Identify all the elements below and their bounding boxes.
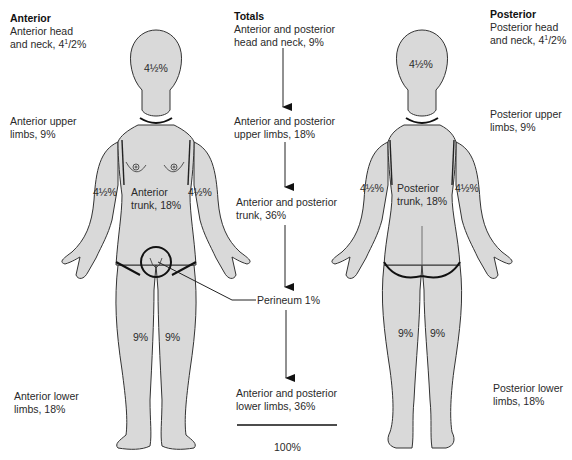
posterior-head-neck-label-line2: and neck, 41/2% bbox=[490, 34, 566, 47]
anterior-left-arm-pct: 4½% bbox=[93, 186, 117, 199]
posterior-lower-limbs-label: Posterior lower limbs, 18% bbox=[493, 382, 563, 408]
posterior-upper-limbs-label: Posterior upper limbs, 9% bbox=[490, 108, 562, 134]
posterior-trunk-pct: Posterior trunk, 18% bbox=[397, 182, 447, 208]
anterior-left-leg-pct: 9% bbox=[133, 331, 148, 344]
totals-sum: 100% bbox=[274, 441, 301, 454]
anterior-body-figure bbox=[62, 30, 250, 449]
anterior-right-leg bbox=[156, 265, 196, 449]
posterior-heading: Posterior bbox=[490, 8, 566, 21]
totals-head-neck-label: Totals Anterior and posterior head and n… bbox=[234, 10, 335, 49]
posterior-left-arm-pct: 4½% bbox=[360, 182, 384, 195]
anterior-head-pct: 4½% bbox=[144, 62, 168, 75]
totals-upper-limbs-label: Anterior and posterior upper limbs, 18% bbox=[234, 115, 335, 141]
totals-trunk-label: Anterior and posterior trunk, 36% bbox=[236, 196, 337, 222]
posterior-column: Posterior Posterior head and neck, 41/2% bbox=[490, 8, 566, 47]
anterior-left-leg bbox=[116, 265, 156, 449]
posterior-right-arm bbox=[456, 142, 512, 278]
posterior-right-leg bbox=[422, 265, 462, 448]
anterior-upper-limbs-label: Anterior upper limbs, 9% bbox=[10, 115, 77, 141]
anterior-right-arm-pct: 4½% bbox=[188, 186, 212, 199]
totals-perineum-label: Perineum 1% bbox=[257, 294, 320, 307]
anterior-trunk-pct: Anterior trunk, 18% bbox=[131, 186, 181, 212]
posterior-head bbox=[396, 30, 447, 116]
anterior-head-neck-label-line2: and neck, 41/2% bbox=[10, 38, 86, 51]
posterior-left-arm bbox=[332, 142, 388, 278]
totals-lower-limbs-label: Anterior and posterior lower limbs, 36% bbox=[236, 387, 337, 413]
posterior-head-neck-label-line1: Posterior head bbox=[490, 21, 566, 34]
anterior-right-leg-pct: 9% bbox=[165, 331, 180, 344]
posterior-left-leg-pct: 9% bbox=[398, 327, 413, 340]
totals-heading: Totals bbox=[234, 10, 335, 23]
anterior-heading: Anterior bbox=[10, 12, 86, 25]
anterior-lower-limbs-label: Anterior lower limbs, 18% bbox=[14, 390, 79, 416]
posterior-neck-line bbox=[406, 118, 438, 123]
anterior-left-arm bbox=[62, 142, 118, 278]
posterior-head-pct: 4½% bbox=[409, 58, 433, 71]
posterior-right-leg-pct: 9% bbox=[430, 327, 445, 340]
totals-flow-arrows bbox=[237, 48, 337, 425]
anterior-column: Anterior Anterior head and neck, 41/2% bbox=[10, 12, 86, 51]
anterior-head-neck-label-line1: Anterior head bbox=[10, 25, 86, 38]
anterior-neck-line bbox=[140, 118, 172, 123]
posterior-right-arm-pct: 4½% bbox=[455, 182, 479, 195]
posterior-left-leg bbox=[382, 265, 422, 448]
